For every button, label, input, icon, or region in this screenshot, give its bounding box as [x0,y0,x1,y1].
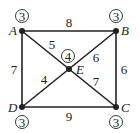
weight-e-c: 7 [93,74,100,89]
graph-diagram: 3 3 3 3 4 A B C D E 8 5 6 6 7 4 7 9 [0,0,140,133]
weight-b-c: 6 [121,62,128,77]
weight-d-e: 4 [41,72,48,87]
degree-e: 4 [65,49,72,64]
vertex-label-a: A [8,23,17,38]
degree-c: 3 [113,115,120,130]
weight-a-d: 7 [11,62,18,77]
weight-b-e: 6 [93,50,100,65]
degree-b: 3 [113,9,120,24]
vertex-b-dot [113,28,119,34]
vertex-label-b: B [121,23,129,38]
edge-a-e [22,31,69,69]
vertex-label-e: E [75,62,84,77]
degree-d: 3 [19,115,26,130]
vertex-label-c: C [121,100,130,115]
weight-a-b: 8 [66,15,73,30]
vertex-c-dot [113,104,119,110]
vertex-e-dot [66,66,72,72]
vertex-a-dot [19,28,25,34]
degree-a: 3 [19,9,26,24]
vertex-d-dot [19,104,25,110]
vertex-label-d: D [7,100,18,115]
weight-a-e: 5 [49,37,56,52]
weight-d-c: 9 [66,109,73,124]
